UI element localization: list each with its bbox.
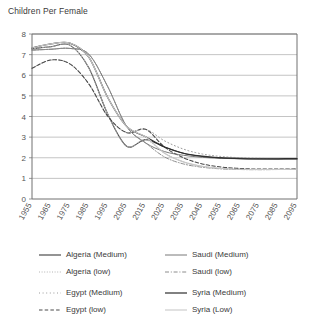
legend-line-sample xyxy=(38,250,62,260)
legend-line-sample xyxy=(164,267,188,277)
legend-label: Syria (Medium) xyxy=(192,288,246,298)
x-tick-label: 1955 xyxy=(17,201,34,221)
legend-line-sample xyxy=(38,288,62,298)
legend-column-left: Algeria (Medium) Algeria (low) Egypt (Me… xyxy=(38,246,168,318)
legend-item[interactable]: Algeria (low) xyxy=(38,263,168,280)
legend-line-sample xyxy=(164,305,188,315)
series-line xyxy=(32,44,297,159)
x-tick-label: 2025 xyxy=(150,201,167,221)
legend-item[interactable]: Saudi (low) xyxy=(164,263,294,280)
legend-label: Saudi (Medium) xyxy=(192,250,248,260)
legend-item[interactable]: Egypt (Medium) xyxy=(38,284,168,301)
y-tick-label: 4 xyxy=(22,113,27,122)
legend-label: Egypt (low) xyxy=(66,305,106,315)
series-line xyxy=(32,60,297,159)
chart-legend: Algeria (Medium) Algeria (low) Egypt (Me… xyxy=(30,246,292,318)
y-tick-label: 1 xyxy=(22,174,27,183)
plot-area: 0123456781955196519751985199520052015202… xyxy=(0,0,311,250)
x-tick-label: 1965 xyxy=(36,201,53,221)
legend-item[interactable]: Egypt (low) xyxy=(38,301,168,318)
y-tick-label: 3 xyxy=(22,133,27,142)
legend-label: Egypt (Medium) xyxy=(66,288,122,298)
x-tick-label: 1995 xyxy=(93,201,110,221)
fertility-chart: Children Per Female 01234567819551965197… xyxy=(0,0,311,323)
y-tick-label: 5 xyxy=(22,92,27,101)
series-line xyxy=(32,44,297,170)
x-tick-label: 2055 xyxy=(206,201,223,221)
legend-label: Saudi (low) xyxy=(192,267,232,277)
legend-column-right: Saudi (Medium) Saudi (low) Syria (Medium… xyxy=(164,246,294,318)
legend-item[interactable]: Syria (Low) xyxy=(164,301,294,318)
x-tick-label: 1975 xyxy=(55,201,72,221)
legend-item[interactable]: Algeria (Medium) xyxy=(38,246,168,263)
legend-line-sample xyxy=(164,250,188,260)
y-tick-label: 2 xyxy=(22,154,27,163)
legend-item[interactable]: Saudi (Medium) xyxy=(164,246,294,263)
x-tick-label: 2005 xyxy=(112,201,129,221)
legend-line-sample xyxy=(38,305,62,315)
legend-item[interactable]: Syria (Medium) xyxy=(164,284,294,301)
y-tick-label: 8 xyxy=(22,30,27,39)
legend-label: Syria (Low) xyxy=(192,305,232,315)
legend-line-sample xyxy=(164,288,188,298)
x-tick-label: 2095 xyxy=(282,201,299,221)
y-tick-label: 6 xyxy=(22,71,27,80)
x-tick-label: 2035 xyxy=(168,201,185,221)
y-tick-label: 7 xyxy=(22,51,27,60)
legend-label: Algeria (Medium) xyxy=(66,250,127,260)
x-tick-label: 2075 xyxy=(244,201,261,221)
x-tick-label: 2065 xyxy=(225,201,242,221)
x-tick-label: 1985 xyxy=(74,201,91,221)
legend-label: Algeria (low) xyxy=(66,267,110,277)
legend-line-sample xyxy=(38,267,62,277)
series-line xyxy=(32,42,297,169)
x-tick-label: 2085 xyxy=(263,201,280,221)
x-tick-label: 2015 xyxy=(131,201,148,221)
x-tick-label: 2045 xyxy=(187,201,204,221)
